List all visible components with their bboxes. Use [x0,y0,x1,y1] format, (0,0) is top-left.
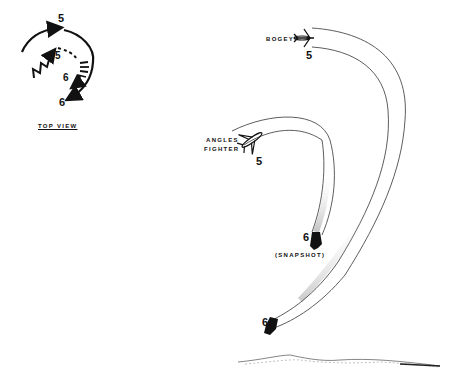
top-view-inset [22,28,93,98]
bogey-end-position-number: 6 [262,316,268,328]
zigzag-arrow-icon [33,52,53,78]
snapshot-position-number: 6 [303,231,309,243]
angles-fighter-trail [232,117,334,235]
angles-fighter-position-number: 5 [256,155,262,167]
outer-arc-arrow-icon [22,28,58,52]
angles-fighter-label-line1: ANGLES [206,136,239,144]
diagram-canvas: 5 5 6 6 TOP VIEW BOGEY 5 ANGLES FIGHTER … [0,0,456,389]
bogey-trail [268,28,405,328]
angles-fighter-label-line2: FIGHTER [204,145,239,153]
top-view-caption: TOP VIEW [38,122,78,130]
terrain-horizon [238,355,440,367]
inset-label-inner: 5 [55,50,61,61]
snapshot-aircraft-icon [310,232,322,250]
inset-label-outer-top: 5 [58,12,64,24]
bogey-position-number: 5 [306,49,312,61]
snapshot-label: (SNAPSHOT) [275,251,325,259]
diagram-graphics [0,0,456,389]
bogey-aircraft-icon [294,29,314,47]
bogey-label: BOGEY [266,35,294,43]
inset-label-inner-end: 6 [63,72,69,83]
inset-label-outer-end: 6 [59,96,65,108]
